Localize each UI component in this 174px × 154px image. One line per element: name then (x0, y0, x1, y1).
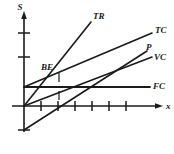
x-axis-arrowhead (155, 103, 163, 109)
variable-cost-label: VC (154, 52, 167, 62)
total-cost-label: TC (155, 25, 167, 35)
chart-canvas: S x TR TC P VC FC BE (0, 0, 174, 154)
y-axis-label: S (17, 2, 22, 12)
y-axis-arrowhead (21, 11, 27, 19)
fixed-cost-label: FC (152, 81, 166, 91)
break-even-label: BE (40, 62, 53, 72)
break-even-chart: S x TR TC P VC FC BE (0, 0, 174, 154)
total-revenue-label: TR (93, 11, 105, 21)
profit-label: P (146, 42, 152, 52)
x-axis-label: x (165, 101, 171, 111)
